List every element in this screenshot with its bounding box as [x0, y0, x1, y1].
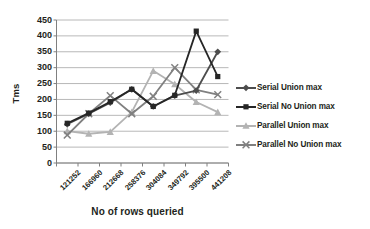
- legend-label: Serial Union max: [257, 83, 322, 92]
- legend-label: Parallel Union max: [257, 121, 328, 130]
- legend-marker-glyph: [240, 101, 252, 113]
- legend-marker-glyph: [240, 120, 252, 132]
- data-point-marker: [242, 122, 249, 129]
- data-point-marker: [172, 93, 177, 98]
- data-point-marker: [214, 48, 221, 55]
- legend-item[interactable]: Parallel Union max: [236, 116, 368, 135]
- data-point-marker: [243, 104, 248, 109]
- legend-marker-square-icon: [236, 101, 256, 112]
- legend-item[interactable]: Serial Union max: [236, 78, 368, 97]
- legend-item[interactable]: Serial No Union max: [236, 97, 368, 116]
- data-point-marker: [243, 84, 250, 91]
- legend-label: Parallel No Union max: [257, 140, 341, 149]
- data-point-marker: [65, 121, 70, 126]
- data-point-marker: [194, 29, 199, 34]
- legend-item[interactable]: Parallel No Union max: [236, 135, 368, 154]
- data-point-marker: [107, 92, 114, 99]
- legend-marker-triangle-icon: [236, 120, 256, 131]
- data-point-marker: [108, 99, 113, 104]
- data-point-marker: [151, 104, 156, 109]
- data-point-marker: [150, 67, 157, 74]
- data-point-marker: [215, 74, 220, 79]
- chart-container: Tms 050100150200250300350400450 12125216…: [0, 0, 370, 229]
- series-line: [67, 31, 218, 123]
- legend-marker-glyph: [240, 139, 252, 151]
- legend-marker-glyph: [240, 82, 252, 94]
- data-point-marker: [150, 93, 157, 100]
- x-axis-title: No of rows queried: [45, 206, 230, 217]
- series-serial-union-max: [64, 48, 221, 127]
- data-point-marker: [86, 111, 91, 116]
- series-parallel-union-max: [64, 67, 222, 137]
- data-point-marker: [129, 87, 134, 92]
- legend-marker-x-icon: [236, 139, 256, 150]
- series-serial-no-union-max: [65, 29, 221, 126]
- chart-legend: Serial Union maxSerial No Union maxParal…: [236, 78, 368, 154]
- data-point-marker: [243, 141, 250, 148]
- legend-label: Serial No Union max: [257, 102, 335, 111]
- legend-marker-diamond-icon: [236, 82, 256, 93]
